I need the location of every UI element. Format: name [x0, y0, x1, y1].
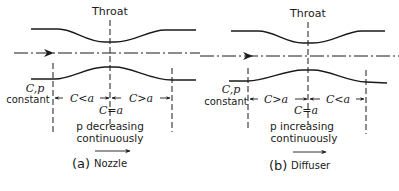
panel-diffuser: Throat C,p constant C>a C<a C=a p increa…: [200, 7, 399, 173]
pressure-trend-line2: continuously: [77, 132, 144, 144]
region-left: C<a: [70, 92, 94, 105]
pressure-trend-line1: p increasing: [270, 120, 334, 132]
lower-wall: [31, 67, 196, 80]
upper-wall: [31, 29, 196, 42]
pressure-trend-line2: continuously: [271, 132, 338, 144]
inlet-label-constant: constant: [204, 96, 248, 107]
throat-label: Throat: [289, 7, 326, 20]
throat-condition: C=a: [99, 104, 123, 117]
region-left: C>a: [264, 93, 288, 106]
caption-label: Nozzle: [94, 158, 127, 169]
pressure-trend-line1: p decreasing: [76, 120, 144, 132]
inlet-label-constant: constant: [6, 94, 50, 105]
panel-nozzle: Throat C,p constant C<a C>a C=a p decrea…: [6, 5, 200, 171]
nozzle-diffuser-diagram: Throat C,p constant C<a C>a C=a p decrea…: [0, 0, 399, 191]
inlet-label-cp: C,p: [222, 83, 241, 96]
caption-label: Diffuser: [291, 160, 331, 171]
throat-condition: C=a: [294, 104, 318, 117]
caption-marker: (b): [269, 158, 287, 173]
region-right: C>a: [129, 92, 153, 105]
region-right: C<a: [326, 93, 350, 106]
throat-label: Throat: [91, 5, 128, 18]
caption-marker: (a): [72, 156, 90, 171]
